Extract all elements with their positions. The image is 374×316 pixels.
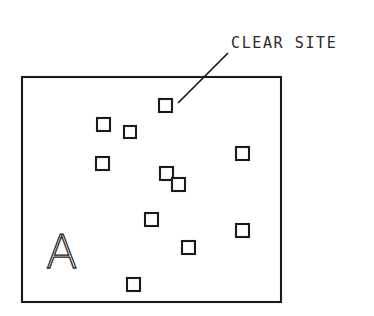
diagram-canvas: CLEAR SITE A [0, 0, 374, 316]
structure-square [96, 157, 109, 170]
structure-square [97, 118, 110, 131]
clear-site-label: CLEAR SITE [231, 34, 337, 52]
structure-square [145, 213, 158, 226]
structure-square [172, 178, 185, 191]
structure-square [159, 99, 172, 112]
parcel-letter-label: A [46, 225, 77, 279]
structure-square [236, 147, 249, 160]
structure-square [236, 224, 249, 237]
structure-square [127, 278, 140, 291]
site-diagram: CLEAR SITE A [0, 0, 374, 316]
structure-square [124, 126, 136, 138]
structure-square [182, 241, 195, 254]
